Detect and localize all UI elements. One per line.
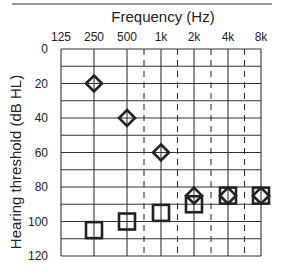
x-tick-label: 4k (222, 30, 236, 44)
data-points (86, 76, 269, 239)
x-tick-label: 125 (51, 30, 71, 44)
y-tick-label: 80 (35, 180, 49, 194)
x-tick-label: 250 (84, 30, 104, 44)
y-tick-label: 100 (28, 215, 48, 229)
y-tick-label: 120 (28, 249, 48, 263)
y-tick-label: 60 (35, 146, 49, 160)
x-axis-title: Frequency (Hz) (111, 8, 214, 25)
y-tick-label: 20 (35, 77, 49, 91)
x-tick-label: 1k (155, 30, 169, 44)
y-tick-label: 0 (41, 42, 48, 56)
x-tick-labels: 1252505001k2k4k8k (51, 30, 268, 44)
y-axis-title: Hearing threshold (dB HL) (7, 75, 24, 249)
x-tick-label: 2k (188, 30, 202, 44)
x-tick-label: 8k (255, 30, 269, 44)
audiogram-chart: Frequency (Hz) 1252505001k2k4k8k 0204060… (0, 0, 283, 274)
x-tick-label: 500 (117, 30, 137, 44)
y-tick-label: 40 (35, 111, 49, 125)
y-tick-labels: 020406080100120 (28, 42, 48, 263)
